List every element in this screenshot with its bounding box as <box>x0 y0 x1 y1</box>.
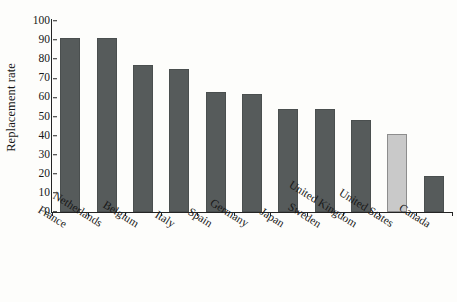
y-axis-title: Replacement rate <box>0 0 22 215</box>
y-axis-tick-label: 20 <box>39 168 54 180</box>
bar[interactable] <box>169 69 189 212</box>
plot-area: 0102030405060708090100 <box>52 21 452 212</box>
y-axis-tick: 90 <box>39 34 53 46</box>
y-axis-tick-label: 50 <box>39 111 54 123</box>
y-axis-tick-label: 100 <box>33 15 53 27</box>
y-axis-tick-label: 80 <box>39 53 54 65</box>
y-axis-tick-label: 70 <box>39 73 54 85</box>
bar[interactable] <box>387 134 407 212</box>
bar-chart: Replacement rate 0102030405060708090100 … <box>0 0 457 302</box>
bar[interactable] <box>206 92 226 212</box>
bar[interactable] <box>60 38 80 212</box>
y-axis-title-text: Replacement rate <box>4 63 19 152</box>
y-axis-tick: 40 <box>39 130 53 142</box>
y-axis-tick: 100 <box>33 15 52 27</box>
y-axis-tick-label: 10 <box>39 187 54 199</box>
y-axis-tick-label: 30 <box>39 149 54 161</box>
y-axis-tick-label: 60 <box>39 92 54 104</box>
y-axis-tick: 50 <box>39 111 53 123</box>
y-axis-tick: 20 <box>39 168 53 180</box>
bar[interactable] <box>133 65 153 212</box>
y-axis-tick-label: 40 <box>39 130 54 142</box>
bar[interactable] <box>242 94 262 212</box>
y-axis-tick: 10 <box>39 187 53 199</box>
bar-series <box>52 21 452 212</box>
y-axis-tick: 60 <box>39 92 53 104</box>
bar[interactable] <box>97 38 117 212</box>
y-axis-tick-label: 90 <box>39 34 54 46</box>
y-axis-tick: 30 <box>39 149 53 161</box>
x-axis-tick-mark <box>452 212 453 216</box>
y-axis-tick: 80 <box>39 53 53 65</box>
y-axis-tick: 70 <box>39 73 53 85</box>
bar[interactable] <box>424 176 444 212</box>
bar[interactable] <box>278 109 298 212</box>
